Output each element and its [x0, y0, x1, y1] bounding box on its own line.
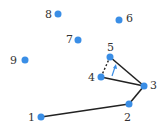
point-label-6: 6 [126, 13, 133, 24]
diagram-canvas [0, 0, 166, 130]
point-4 [98, 74, 105, 81]
point-label-5: 5 [107, 42, 114, 53]
point-label-4: 4 [88, 72, 95, 83]
point-9 [22, 57, 29, 64]
point-label-7: 7 [66, 34, 73, 45]
edge-1-2 [41, 104, 129, 117]
arrowhead-icon [113, 64, 117, 69]
point-6 [116, 17, 123, 24]
point-5 [107, 54, 114, 61]
point-label-2: 2 [124, 112, 131, 123]
edge-2-3 [129, 86, 144, 104]
point-label-9: 9 [10, 55, 17, 66]
point-1 [38, 114, 45, 121]
point-label-8: 8 [45, 9, 52, 20]
point-7 [75, 37, 82, 44]
point-label-3: 3 [150, 80, 157, 91]
point-3 [141, 83, 148, 90]
point-2 [126, 101, 133, 108]
point-8 [55, 11, 62, 18]
point-label-1: 1 [28, 112, 35, 123]
